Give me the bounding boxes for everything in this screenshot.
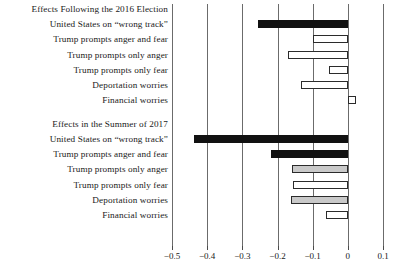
x-tick-label: −0.1 xyxy=(304,251,320,261)
category-label: Trump prompts anger and fear xyxy=(53,34,168,44)
plot-area xyxy=(172,4,383,246)
x-tick xyxy=(313,246,314,250)
category-label: Trump prompts only fear xyxy=(73,65,168,75)
gridline-minus0.5 xyxy=(172,4,173,246)
category-label: Trump prompts anger and fear xyxy=(53,149,168,159)
gridline-0 xyxy=(348,4,349,246)
bar-chart: Effects Following the 2016 ElectionUnite… xyxy=(0,0,398,268)
bar xyxy=(271,150,348,158)
category-label: Financial worries xyxy=(102,95,168,105)
x-tick-label: −0.4 xyxy=(199,251,215,261)
x-tick xyxy=(383,246,384,250)
bar xyxy=(292,165,348,173)
category-label: Financial worries xyxy=(102,210,168,220)
group-heading-1: Effects Following the 2016 Election xyxy=(31,4,168,14)
x-axis-ticks: −0.5−0.4−0.3−0.2−0.100.1 xyxy=(172,246,383,268)
bar xyxy=(293,181,348,189)
category-label: Deportation worries xyxy=(92,195,168,205)
category-label: Trump prompts only anger xyxy=(67,164,168,174)
bar xyxy=(348,96,356,104)
x-tick-label: 0 xyxy=(346,251,351,261)
category-label: Trump prompts only fear xyxy=(73,180,168,190)
category-label: United States on “wrong track” xyxy=(50,134,168,144)
bar xyxy=(301,81,347,89)
bar xyxy=(313,35,348,43)
gridline-0.1 xyxy=(383,4,384,246)
category-label-column: Effects Following the 2016 ElectionUnite… xyxy=(0,0,172,246)
gridline-minus0.2 xyxy=(278,4,279,246)
bar xyxy=(194,135,348,143)
bar xyxy=(329,66,348,74)
group-heading-2: Effects in the Summer of 2017 xyxy=(52,119,168,129)
x-tick xyxy=(278,246,279,250)
x-tick xyxy=(172,246,173,250)
x-tick-label: −0.2 xyxy=(269,251,285,261)
category-label: United States on “wrong track” xyxy=(50,19,168,29)
bar xyxy=(291,196,348,204)
gridline-minus0.4 xyxy=(207,4,208,246)
x-tick xyxy=(348,246,349,250)
category-label: Deportation worries xyxy=(92,80,168,90)
gridline-minus0.3 xyxy=(242,4,243,246)
bar xyxy=(258,20,348,28)
x-tick-label: −0.3 xyxy=(234,251,250,261)
x-tick-label: −0.5 xyxy=(164,251,180,261)
x-tick xyxy=(242,246,243,250)
category-label: Trump prompts only anger xyxy=(67,50,168,60)
x-tick xyxy=(207,246,208,250)
bar xyxy=(288,51,348,59)
x-tick-label: 0.1 xyxy=(377,251,388,261)
bar xyxy=(326,211,348,219)
